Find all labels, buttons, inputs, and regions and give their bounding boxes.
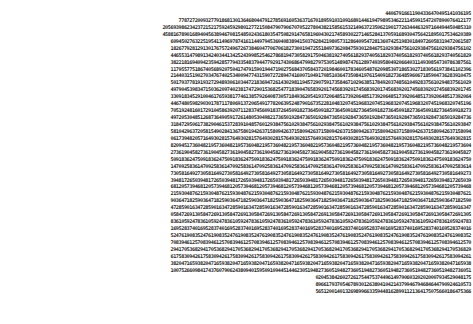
digit-lines: 4406791661190433647049514103619577872720… xyxy=(25,10,471,294)
random-digits-page: 4406791661190433647049514103619577872720… xyxy=(0,0,473,324)
digit-line: 5247619083524761908352476190835247619083… xyxy=(25,232,471,239)
digit-line: 6175830942617583094261758309426175830942… xyxy=(25,253,471,260)
digit-line: 0204538426027261754475374496149790603202… xyxy=(25,274,471,281)
digit-line: 44067916611904336470495141036195 xyxy=(25,10,471,17)
digit-line: 2941705368294170536829417053682941705368… xyxy=(25,246,471,253)
digit-line: 4465531479891342403441342524399852546278… xyxy=(25,52,471,59)
digit-line: 1826779281291301767572496726738460477067… xyxy=(25,45,471,52)
digit-line: 1179557751867405689207504174791590194471… xyxy=(25,66,471,73)
digit-line: 8966179370546789301263804104214379946794… xyxy=(25,281,471,288)
digit-line: 4728590163472859016347285901634728590163… xyxy=(25,204,471,211)
digit-line: 3309183452910046176593817746138579264087… xyxy=(25,93,471,100)
digit-line: 3184729506173829046153728391048576012938… xyxy=(25,121,471,128)
digit-line: 7083946125708394612570839461257083946125… xyxy=(25,239,471,246)
digit-line: 7787272009327791868130136468044791278569… xyxy=(25,17,471,24)
digit-line: 5810429637205815490284136758019426371580… xyxy=(25,128,471,135)
digit-line: 1695283740169528374016952837401695283740… xyxy=(25,225,471,232)
digit-line: 6812057394681205739468120573946812057394… xyxy=(25,183,471,190)
digit-line: 1470925836147092583614709258361470925836… xyxy=(25,163,471,170)
digit-line: 8209451736048219573604821957360482195736… xyxy=(25,142,471,149)
digit-line: 2056939862342372152175924592980127721508… xyxy=(25,24,471,31)
digit-line: 7051924816017291045863920711283745609183… xyxy=(25,107,471,114)
digit-line: 2736190458273619045827361904582736190458… xyxy=(25,149,471,156)
digit-line: 9036471825903647182590364718259036471825… xyxy=(25,197,471,204)
digit-line: 3948172650394817265039481726503948172650… xyxy=(25,177,471,184)
digit-line: 0584726913058472691305847269130584726913… xyxy=(25,211,471,218)
digit-line: 3820471659382047165938204716593820471659… xyxy=(25,260,471,267)
digit-line: 4979045398347150362097402381747290153682… xyxy=(25,86,471,93)
digit-line: 7305816492730581649273058164927305816492… xyxy=(25,170,471,177)
digit-line: 3822181694094235942857794335483794477929… xyxy=(25,59,471,66)
digit-line: 2144031519027034767402534009477431590727… xyxy=(25,72,471,79)
digit-line: 5017937781919327294893061034472183694726… xyxy=(25,79,471,86)
digit-line: 1007526609841743760790624380940159509109… xyxy=(25,267,471,274)
digit-line: 6094502763225195411496978741611449794536… xyxy=(25,38,471,45)
digit-line: 4467480598290301787117806913720654917782… xyxy=(25,100,471,107)
digit-line: 2159304876215930487621593048762159304876… xyxy=(25,190,471,197)
digit-line: 8361059247836105924783610592478361059247… xyxy=(25,218,471,225)
digit-line: 5091836247509183624750918362475091836247… xyxy=(25,156,471,163)
digit-line: 0617394820571649302815764930281576493028… xyxy=(25,135,471,142)
digit-line: 5651200140132698996633594481628991121364… xyxy=(25,288,471,295)
digit-line: 4972053048512687364905917261480530498217… xyxy=(25,114,471,121)
digit-line: 4588167890168940456389467081548502436180… xyxy=(25,31,471,38)
